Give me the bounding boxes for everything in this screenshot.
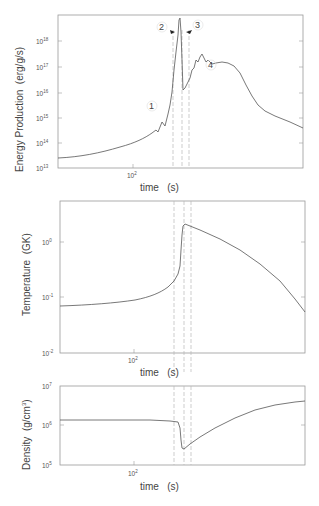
svg-text:4: 4: [208, 60, 213, 70]
arrow-icon: [170, 30, 175, 34]
xtick-label: 102: [128, 469, 138, 477]
y-axis-label: Temperature (GK): [21, 233, 32, 316]
ytick-label: 106: [42, 421, 52, 429]
y-axis-label: Density (g/cm3): [21, 399, 32, 470]
density-curve: [60, 401, 305, 449]
annotation-3: 3: [186, 20, 203, 34]
annotation-1: 1: [147, 101, 157, 111]
svg-text:2: 2: [159, 22, 164, 32]
xtick-label: 102: [128, 356, 138, 364]
x-axis-label: time (s): [140, 182, 179, 193]
plot-frame: [60, 386, 305, 465]
figure: 1018 1017 1016 1015 1014 1013 102 time (…: [0, 0, 319, 506]
ytick-label: 105: [42, 461, 52, 469]
ytick-label: 1016: [36, 89, 49, 97]
y-ticks: [60, 242, 305, 353]
ytick-label: 10-1: [42, 293, 54, 301]
annotation-2: 2: [157, 22, 175, 34]
y-ticks: [60, 425, 305, 465]
y-ticks: [58, 41, 303, 168]
ytick-label: 1018: [36, 37, 49, 45]
temperature-panel: 100 10-1 10-2 102 time (s) Temperature (…: [21, 201, 305, 378]
x-axis-label: time (s): [140, 367, 179, 378]
temperature-curve: [60, 224, 305, 312]
y-axis-label: Energy Production (erg/g/s): [14, 47, 25, 172]
energy-production-curve: [58, 18, 303, 158]
energy-production-panel: 1018 1017 1016 1015 1014 1013 102 time (…: [14, 15, 303, 193]
xtick-label: 102: [127, 171, 137, 179]
svg-text:3: 3: [195, 20, 200, 30]
ytick-label: 1013: [36, 164, 49, 172]
density-panel: 107 106 105 102 time (s) Density (g/cm3): [21, 382, 305, 492]
ytick-label: 107: [42, 382, 52, 390]
ytick-label: 1014: [36, 139, 49, 147]
ytick-label: 10-2: [42, 349, 54, 357]
ytick-label: 1015: [36, 114, 49, 122]
plot-frame: [58, 15, 303, 168]
svg-text:1: 1: [149, 101, 154, 111]
y-tick-labels: 1018 1017 1016 1015 1014 1013: [36, 37, 49, 172]
ytick-label: 100: [42, 238, 52, 246]
x-axis-label: time (s): [140, 481, 179, 492]
annotation-4: 4: [206, 60, 216, 70]
plot-frame: [60, 201, 305, 353]
ytick-label: 1017: [36, 63, 49, 71]
